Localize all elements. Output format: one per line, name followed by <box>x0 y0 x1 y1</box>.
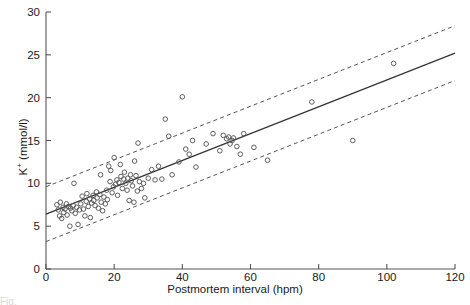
data-point <box>112 155 117 160</box>
data-point <box>108 179 113 184</box>
data-point <box>83 214 88 219</box>
data-point <box>139 186 144 191</box>
data-point <box>78 202 83 207</box>
data-point <box>128 172 133 177</box>
data-point <box>163 117 168 122</box>
data-point <box>166 134 171 139</box>
x-tick-label: 20 <box>108 271 121 283</box>
data-point <box>88 215 93 220</box>
y-tick-label: 5 <box>14 220 40 232</box>
data-point <box>110 190 115 195</box>
y-tick-label: 30 <box>14 6 40 18</box>
data-point <box>218 148 223 153</box>
data-point <box>108 168 113 173</box>
y-tick-label: 10 <box>14 177 40 189</box>
data-point <box>310 100 315 105</box>
regression-line-path <box>46 53 455 214</box>
data-point <box>252 145 257 150</box>
y-tick-label: 15 <box>14 135 40 147</box>
data-point <box>127 198 132 203</box>
y-axis-label-base: K <box>17 168 29 176</box>
x-tick-label: 80 <box>312 271 325 283</box>
data-point <box>211 131 216 136</box>
data-point <box>100 208 105 213</box>
data-point <box>350 138 355 143</box>
data-point <box>235 144 240 149</box>
data-point <box>134 173 139 178</box>
data-point <box>391 61 396 66</box>
data-point <box>98 172 103 177</box>
x-tick-label: 100 <box>377 271 396 283</box>
data-point <box>241 131 246 136</box>
data-point <box>190 138 195 143</box>
axes <box>46 12 455 269</box>
data-point <box>72 181 77 186</box>
data-point <box>238 152 243 157</box>
data-point <box>265 158 270 163</box>
x-axis-label: Postmortem interval (hpm) <box>0 283 470 295</box>
data-point <box>65 213 70 218</box>
data-point <box>76 222 81 227</box>
data-point <box>156 164 161 169</box>
data-point <box>146 176 151 181</box>
data-point <box>125 188 130 193</box>
data-point <box>130 184 135 189</box>
data-point <box>73 211 78 216</box>
data-point <box>132 200 137 205</box>
data-point <box>183 147 188 152</box>
regression-line <box>46 53 455 214</box>
data-point <box>170 172 175 177</box>
data-point <box>122 170 127 175</box>
data-point <box>143 196 148 201</box>
data-point <box>58 200 63 205</box>
data-point <box>120 186 125 191</box>
data-point <box>80 194 85 199</box>
data-point <box>204 142 209 147</box>
data-point <box>136 141 141 146</box>
data-point <box>132 159 137 164</box>
figure-caption: Fig. <box>0 296 470 305</box>
data-point <box>105 197 110 202</box>
lower-prediction-band <box>46 81 455 242</box>
data-points <box>55 61 396 228</box>
y-tick-label: 0 <box>14 263 40 275</box>
x-tick-label: 0 <box>43 271 49 283</box>
y-tick-label: 20 <box>14 92 40 104</box>
data-point <box>119 174 124 179</box>
data-point <box>68 224 73 229</box>
data-point <box>118 162 123 167</box>
data-point <box>153 178 158 183</box>
data-point <box>194 165 199 170</box>
data-point <box>160 177 165 182</box>
data-point <box>180 95 185 100</box>
data-point <box>141 181 146 186</box>
data-point <box>115 193 120 198</box>
y-tick-label: 25 <box>14 49 40 61</box>
x-tick-label: 40 <box>176 271 189 283</box>
data-point <box>85 191 90 196</box>
data-point <box>149 167 154 172</box>
y-axis-label-superscript: + <box>15 163 24 168</box>
upper-prediction-band <box>46 26 455 187</box>
scatter-plot <box>0 0 470 305</box>
x-tick-label: 60 <box>244 271 257 283</box>
data-point <box>187 152 192 157</box>
x-tick-label: 120 <box>445 271 464 283</box>
